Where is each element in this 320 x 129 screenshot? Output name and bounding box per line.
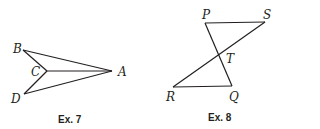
caption-ex8: Ex. 8 bbox=[208, 112, 232, 123]
diagram-canvas: B C A D Ex. 7 P S T R Q Ex. 8 bbox=[0, 0, 320, 129]
vertex-label-C: C bbox=[31, 65, 40, 79]
figure-ex8: P S T R Q Ex. 8 bbox=[165, 8, 271, 123]
vertex-label-R: R bbox=[165, 90, 175, 104]
vertex-label-D: D bbox=[10, 92, 21, 106]
vertex-label-P: P bbox=[201, 8, 211, 22]
vertex-label-S: S bbox=[263, 8, 271, 22]
segment-PS bbox=[205, 22, 265, 23]
vertex-label-T: T bbox=[226, 52, 235, 66]
vertex-label-B: B bbox=[12, 42, 22, 56]
vertex-label-A: A bbox=[117, 65, 127, 79]
vertex-label-Q: Q bbox=[229, 90, 239, 104]
segment-RQ bbox=[173, 86, 232, 87]
figure-ex7: B C A D Ex. 7 bbox=[10, 42, 127, 125]
caption-ex7: Ex. 7 bbox=[58, 114, 82, 125]
